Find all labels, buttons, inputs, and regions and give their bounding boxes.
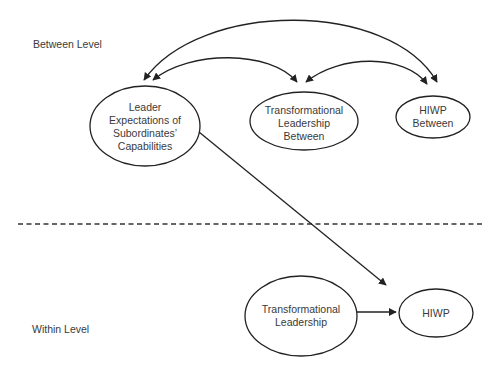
- covariance-arc-leader-tl: [153, 58, 297, 82]
- node-text-line: Transformational: [265, 104, 343, 116]
- covariance-arc-tl-hiwp: [306, 61, 427, 84]
- node-text-line: Leadership: [275, 316, 327, 328]
- node-leader-expectations: Leader Expectations of Subordinates’ Cap…: [90, 86, 200, 166]
- node-text-line: HIWP: [422, 307, 449, 319]
- node-text-line: Leadership: [278, 117, 330, 129]
- node-text-line: Between: [284, 130, 325, 142]
- node-hiwp-between: HIWP Between: [396, 96, 470, 138]
- cross-level-moderation-arrow: [199, 132, 386, 285]
- within-level-label: Within Level: [32, 323, 89, 335]
- node-text-line: Capabilities: [118, 140, 172, 152]
- node-text-line: Expectations of: [109, 114, 181, 126]
- node-text-line: Transformational: [262, 303, 340, 315]
- covariance-arc-leader-hiwp: [144, 20, 437, 82]
- node-tl-between: Transformational Leadership Between: [250, 92, 358, 150]
- node-text-line: HIWP: [419, 104, 446, 116]
- node-text-line: Between: [413, 117, 454, 129]
- node-tl-within: Transformational Leadership: [245, 276, 357, 356]
- node-hiwp-within: HIWP: [399, 289, 473, 337]
- node-text-line: Subordinates’: [113, 127, 177, 139]
- between-level-label: Between Level: [33, 38, 102, 50]
- multilevel-model-diagram: Between Level Within Level Leader Expect…: [0, 0, 497, 370]
- node-text-line: Leader: [129, 101, 162, 113]
